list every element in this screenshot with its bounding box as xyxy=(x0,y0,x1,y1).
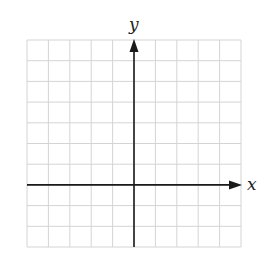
x-axis-arrow-icon xyxy=(229,180,242,189)
coordinate-plane: x y xyxy=(0,0,266,257)
y-axis-label: y xyxy=(128,14,139,34)
y-axis-arrow-icon xyxy=(130,39,139,52)
x-axis-label: x xyxy=(247,174,257,194)
